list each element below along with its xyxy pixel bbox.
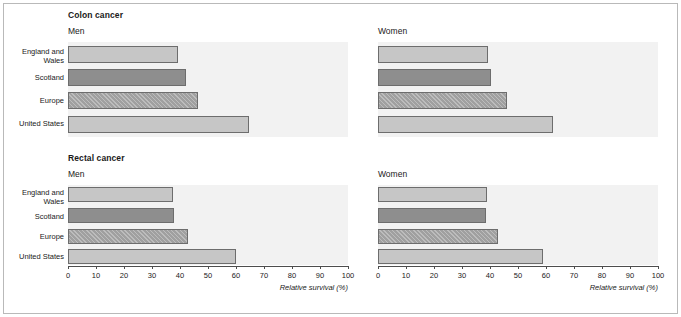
x-tick-0-right [378, 266, 379, 269]
bar-rectal-men-united-states [68, 249, 236, 264]
bar-colon-women-europe [378, 92, 507, 109]
sex-title-women-colon: Women [378, 26, 407, 36]
x-tick-30-left [152, 266, 153, 269]
bar-rectal-men-europe [68, 229, 188, 244]
x-tick-100-right [658, 266, 659, 269]
x-tick-label-40-right: 40 [478, 271, 502, 280]
cat-label-scotland-rectal-men: Scotland [0, 213, 64, 222]
x-tick-20-right [434, 266, 435, 269]
cat-label-europe-colon-men: Europe [0, 97, 64, 106]
x-tick-label-70-right: 70 [562, 271, 586, 280]
x-tick-label-80-right: 80 [590, 271, 614, 280]
x-tick-label-80-left: 80 [280, 271, 304, 280]
panel-colon-women: Women [350, 0, 681, 150]
cat-label-europe-rectal-men: Europe [0, 233, 64, 242]
sex-title-men-rectal: Men [68, 169, 85, 179]
x-tick-label-10-left: 10 [84, 271, 108, 280]
x-tick-label-90-left: 90 [308, 271, 332, 280]
x-tick-60-right [546, 266, 547, 269]
x-tick-label-40-left: 40 [168, 271, 192, 280]
x-tick-label-60-left: 60 [224, 271, 248, 280]
x-axis-title-right: Relative survival (%) [538, 283, 658, 292]
x-tick-90-left [320, 266, 321, 269]
bar-colon-women-england-wales [378, 46, 488, 63]
x-tick-10-left [96, 266, 97, 269]
sex-title-women-rectal: Women [378, 169, 407, 179]
bar-colon-men-scotland [68, 69, 186, 86]
x-tick-90-right [630, 266, 631, 269]
bar-rectal-women-scotland [378, 208, 486, 223]
sex-title-men-colon: Men [68, 26, 85, 36]
bar-rectal-men-scotland [68, 208, 174, 223]
cat-label-united-states-rectal-men: United States [0, 253, 64, 262]
bar-rectal-women-europe [378, 229, 498, 244]
cat-label-united-states-colon-men: United States [0, 120, 64, 129]
bar-rectal-men-england-wales [68, 187, 173, 202]
x-tick-100-left [348, 266, 349, 269]
x-tick-label-30-left: 30 [140, 271, 164, 280]
x-tick-40-left [180, 266, 181, 269]
x-tick-label-20-right: 20 [422, 271, 446, 280]
x-tick-label-60-right: 60 [534, 271, 558, 280]
x-tick-label-20-left: 20 [112, 271, 136, 280]
x-tick-label-100-right: 100 [646, 271, 670, 280]
x-tick-label-0-left: 0 [56, 271, 80, 280]
x-tick-label-70-left: 70 [252, 271, 276, 280]
cat-label-england-wales-rectal-men: England and Wales [0, 189, 64, 206]
x-tick-10-right [406, 266, 407, 269]
cat-label-scotland-colon-men: Scotland [0, 74, 64, 83]
x-tick-50-right [518, 266, 519, 269]
panel-colon-men: Colon cancer Men England and Wales Scotl… [0, 0, 350, 150]
panel-rectal-women: Women 0 10 20 30 40 50 60 70 80 90 100 R… [350, 145, 681, 317]
x-tick-label-0-right: 0 [366, 271, 390, 280]
x-tick-label-10-right: 10 [394, 271, 418, 280]
section-title-colon: Colon cancer [68, 10, 123, 20]
figure-root: Colon cancer Men England and Wales Scotl… [0, 0, 681, 317]
panel-rectal-men: Rectal cancer Men England and Wales Scot… [0, 145, 350, 317]
x-tick-label-30-right: 30 [450, 271, 474, 280]
x-tick-label-90-right: 90 [618, 271, 642, 280]
x-tick-30-right [462, 266, 463, 269]
bar-colon-men-united-states [68, 116, 249, 133]
x-tick-80-left [292, 266, 293, 269]
x-tick-70-left [264, 266, 265, 269]
bar-rectal-women-united-states [378, 249, 543, 264]
x-tick-0-left [68, 266, 69, 269]
x-tick-label-50-left: 50 [196, 271, 220, 280]
bar-colon-women-united-states [378, 116, 553, 133]
section-title-rectal: Rectal cancer [68, 153, 125, 163]
bar-rectal-women-england-wales [378, 187, 487, 202]
x-tick-50-left [208, 266, 209, 269]
x-tick-40-right [490, 266, 491, 269]
bar-colon-men-europe [68, 92, 198, 109]
bar-colon-women-scotland [378, 69, 491, 86]
x-tick-70-right [574, 266, 575, 269]
cat-label-england-wales-colon-men: England and Wales [0, 48, 64, 65]
x-axis-title-left: Relative survival (%) [228, 283, 348, 292]
x-tick-80-right [602, 266, 603, 269]
bar-colon-men-england-wales [68, 46, 178, 63]
x-tick-20-left [124, 266, 125, 269]
x-tick-label-50-right: 50 [506, 271, 530, 280]
x-tick-60-left [236, 266, 237, 269]
